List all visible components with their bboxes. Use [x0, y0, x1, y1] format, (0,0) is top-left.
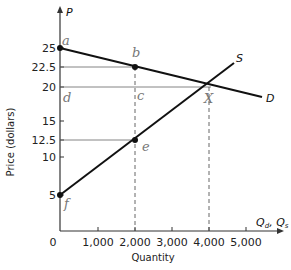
- annotation-f: f: [63, 196, 71, 211]
- x-tick-5000: 5,000: [230, 236, 262, 249]
- y-tick-10: 10: [42, 151, 56, 164]
- demand-curve: [60, 48, 262, 97]
- y-tick-25: 25: [42, 42, 56, 55]
- annotation-b: b: [132, 45, 140, 60]
- y-axis-arrow-icon: [57, 6, 63, 13]
- y-axis-symbol: P: [66, 6, 73, 19]
- supply-demand-chart: 25 22.5 20 15 12.5 10 5 0 1,000 2,000 3,…: [0, 0, 291, 270]
- svg-text:Qd, Qs: Qd, Qs: [256, 216, 289, 230]
- demand-label: D: [266, 92, 274, 105]
- point-f: [57, 192, 63, 198]
- annotation-x: X: [203, 91, 214, 106]
- x-tick-0: 0: [50, 236, 57, 249]
- supply-curve: [60, 63, 234, 195]
- y-tick-22-5: 22.5: [32, 61, 57, 74]
- x-tick-2000: 2,000: [119, 236, 151, 249]
- x-axis-symbol: Qd, Qs: [256, 216, 289, 230]
- y-tick-20: 20: [42, 81, 56, 94]
- guide-lines: [60, 67, 211, 140]
- point-b: [132, 64, 138, 70]
- annotation-c: c: [137, 88, 145, 103]
- y-axis-title: Price (dollars): [5, 107, 16, 176]
- annotation-e: e: [142, 139, 150, 154]
- supply-label: S: [236, 52, 243, 65]
- annotation-a: a: [62, 33, 70, 48]
- y-tick-5: 5: [49, 189, 56, 202]
- x-tick-1000: 1,000: [82, 236, 114, 249]
- point-e: [132, 137, 138, 143]
- y-tick-12-5: 12.5: [32, 134, 57, 147]
- y-tick-15: 15: [42, 115, 56, 128]
- x-tick-3000: 3,000: [156, 236, 188, 249]
- x-axis-title: Quantity: [131, 252, 174, 263]
- annotation-d: d: [63, 90, 71, 105]
- x-tick-4000: 4,000: [193, 236, 225, 249]
